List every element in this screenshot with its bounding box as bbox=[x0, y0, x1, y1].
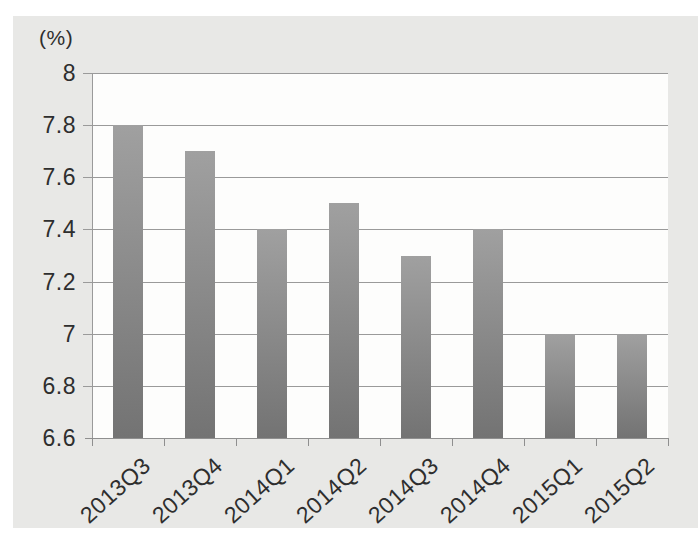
gridline bbox=[83, 229, 668, 230]
gridline bbox=[83, 386, 668, 387]
y-axis-line bbox=[92, 73, 93, 439]
bar bbox=[113, 125, 143, 438]
x-axis-tick bbox=[452, 438, 453, 446]
bar bbox=[257, 229, 287, 438]
y-tick-label: 7 bbox=[13, 320, 76, 348]
gridline bbox=[83, 177, 668, 178]
x-axis-tick bbox=[164, 438, 165, 446]
gridline bbox=[83, 73, 668, 74]
bar bbox=[473, 229, 503, 438]
x-axis-tick bbox=[380, 438, 381, 446]
chart-panel: (%) 87.87.67.47.276.86.6 2013Q32013Q4201… bbox=[13, 16, 698, 528]
bar bbox=[401, 256, 431, 439]
bar bbox=[617, 334, 647, 438]
plot-area bbox=[92, 73, 668, 438]
y-tick-label: 6.8 bbox=[13, 372, 76, 400]
gridline bbox=[83, 282, 668, 283]
x-axis-tick bbox=[92, 438, 93, 446]
bar bbox=[545, 334, 575, 438]
y-tick-label: 7.4 bbox=[13, 215, 76, 243]
y-axis-unit-label: (%) bbox=[39, 26, 73, 50]
x-axis-tick bbox=[524, 438, 525, 446]
x-axis-tick bbox=[668, 438, 669, 446]
bar bbox=[185, 151, 215, 438]
x-axis-tick bbox=[308, 438, 309, 446]
x-axis-line bbox=[85, 438, 669, 439]
y-tick-label: 8 bbox=[13, 59, 76, 87]
y-tick-label: 7.8 bbox=[13, 111, 76, 139]
y-tick-label: 6.6 bbox=[13, 424, 76, 452]
x-axis-tick bbox=[596, 438, 597, 446]
gridline bbox=[83, 125, 668, 126]
x-axis-tick bbox=[236, 438, 237, 446]
gridline bbox=[83, 334, 668, 335]
bar bbox=[329, 203, 359, 438]
y-tick-label: 7.2 bbox=[13, 268, 76, 296]
y-tick-label: 7.6 bbox=[13, 163, 76, 191]
